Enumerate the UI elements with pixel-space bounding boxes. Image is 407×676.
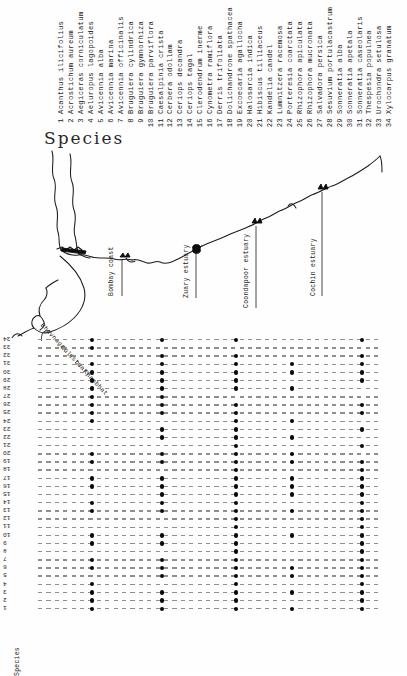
matrix-presence-dot [90,598,94,602]
species-list-item: 30Sonneratia apetala [347,30,355,130]
matrix-row: 7 [22,556,386,564]
matrix-presence-dot [160,386,164,390]
matrix-presence-dot [160,460,164,464]
matrix-row-label: 11 [3,522,19,529]
matrix-row-label: 28 [3,384,19,391]
matrix-presence-dot [160,533,164,537]
matrix-presence-dot [160,338,164,342]
matrix-presence-dot [234,444,238,448]
matrix-row: 10 [22,532,386,540]
matrix-row-label: 19 [3,457,19,464]
matrix-presence-dot [234,386,238,390]
species-name: Avicennia marina [107,39,115,114]
species-name: Avicennia alba [97,49,105,114]
matrix-row: 30 [22,369,386,377]
matrix-presence-dot [360,517,364,521]
matrix-presence-dot [90,582,94,586]
matrix-presence-dot [90,338,94,342]
matrix-presence-dot [160,452,164,456]
matrix-row-label: 13 [3,506,19,513]
matrix-row-label: 12 [3,514,19,521]
matrix-row-label: 33 [3,343,19,350]
matrix-row: 28 [22,385,386,393]
matrix-presence-dot [360,362,364,366]
species-number: 24 [287,118,295,130]
matrix-gridline [38,355,380,356]
matrix-row-label: 9 [3,539,19,546]
matrix-presence-dot [160,411,164,415]
species-list-item: 8Bruguiera cylindrica [128,21,136,130]
species-number: 30 [347,118,355,130]
matrix-row: 21 [22,442,386,450]
matrix-presence-dot [160,598,164,602]
species-number: 5 [98,118,106,130]
species-name: Sonneratia apetala [346,30,354,114]
species-list-item: 17Derris trifoliata [217,35,225,130]
species-number: 26 [307,118,315,130]
matrix-presence-dot [360,468,364,472]
matrix-row: 20 [22,450,386,458]
species-name: Dolichandrone spathacea [226,7,234,114]
matrix-presence-dot [234,574,238,578]
species-name: Salvadora persica [316,35,324,114]
matrix-presence-dot [360,566,364,570]
matrix-row-label: 14 [3,498,19,505]
matrix-presence-dot [90,558,94,562]
matrix-gridline [38,551,380,552]
species-name: Thespesia populnea [365,30,373,114]
matrix-presence-dot [360,411,364,415]
matrix-row: 26 [22,401,386,409]
species-name: Caesalpinia crista [157,30,165,114]
species-list-item: 1Acanthus ilicifolius [58,21,66,130]
species-number: 23 [277,118,285,130]
species-number: 1 [58,118,66,130]
matrix-presence-dot [160,395,164,399]
matrix-presence-dot [290,484,294,488]
matrix-presence-dot [234,525,238,529]
species-list-item: 24Porteresia coarctata [287,21,295,130]
matrix-presence-dot [360,598,364,602]
species-name: Xylocarpus granatum [385,25,393,114]
species-name: Sesuvium portulacastrum [326,7,334,114]
matrix-presence-dot [360,476,364,480]
map-location-label: Cochin estuary [310,238,317,296]
matrix-presence-dot [360,403,364,407]
matrix-presence-dot [234,370,238,374]
matrix-row: 13 [22,507,386,515]
matrix-presence-dot [160,607,164,611]
matrix-row: 25 [22,409,386,417]
matrix-presence-dot [234,517,238,521]
species-number: 19 [237,118,245,130]
species-number: 18 [227,118,235,130]
matrix-presence-dot [290,509,294,513]
species-number: 3 [78,118,86,130]
species-name: Lumnitzera racemosa [276,25,284,114]
species-list-item: 20Halosarcia indica [247,35,255,130]
matrix-presence-dot [90,419,94,423]
matrix-row: 5 [22,572,386,580]
matrix-presence-dot [290,566,294,570]
matrix-presence-dot [234,378,238,382]
matrix-presence-dot [360,607,364,611]
species-name: Bruguiera cylindrica [127,21,135,114]
matrix-row: 19 [22,458,386,466]
matrix-presence-dot [360,378,364,382]
matrix-presence-dot [90,362,94,366]
species-name: Excoecaria agallocha [236,21,244,114]
species-list-item: 7Avicennia officinalis [118,16,126,130]
species-name: Aegiceras corniculatum [77,11,85,114]
matrix-presence-dot [290,590,294,594]
species-number: 14 [187,118,195,130]
matrix-presence-dot [290,607,294,611]
species-name: Sonneratia alba [336,44,344,114]
matrix-row-label: 18 [3,465,19,472]
matrix-row-label: 29 [3,376,19,383]
species-number: 12 [167,118,175,130]
map-location-label: Bombay coast [108,246,115,296]
matrix-row-label: 30 [3,368,19,375]
matrix-presence-dot [360,541,364,545]
matrix-presence-dot [234,484,238,488]
species-list-item: 18Dolichandrone spathacea [227,7,235,130]
species-number: 25 [297,118,305,130]
